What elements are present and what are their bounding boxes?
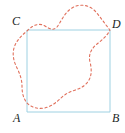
geometry-figure: C D A B [0,0,125,133]
vertex-label-b: B [112,112,119,124]
vertex-label-d: D [112,18,121,30]
vertex-label-a: A [13,112,20,124]
vertex-label-c: C [12,15,20,27]
square-abcd-outline [27,30,110,112]
